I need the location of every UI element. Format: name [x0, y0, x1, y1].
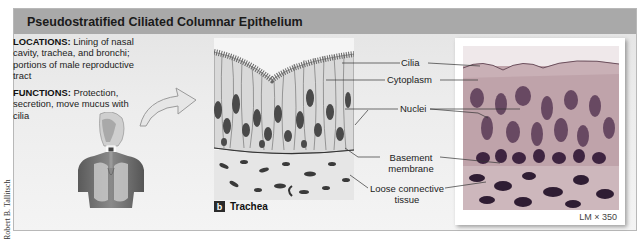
panel-title: Pseudostratified Ciliated Columnar Epith… — [14, 9, 636, 34]
epithelium-drawing — [214, 38, 354, 200]
label-basement-line2: membrane — [382, 163, 440, 174]
label-loose-line1: Loose connective — [368, 183, 446, 194]
figure-caption: b Trachea — [214, 201, 268, 212]
label-loose-connective-tissue: Loose connective tissue — [368, 183, 446, 205]
locations-block: LOCATIONS: Lining of nasal cavity, trach… — [13, 36, 138, 81]
label-cilia: Cilia — [401, 57, 419, 68]
label-nuclei: Nuclei — [400, 103, 426, 114]
micrograph-image — [463, 46, 619, 210]
label-basement-line1: Basement — [382, 152, 440, 163]
label-loose-line2: tissue — [368, 194, 446, 205]
locations-label: LOCATIONS: — [13, 36, 71, 47]
micrograph-frame: LM × 350 — [455, 38, 625, 225]
magnification-label: LM × 350 — [579, 212, 617, 222]
panel-letter-badge: b — [214, 201, 225, 212]
photo-credit: Robert B. Tallitsch — [1, 170, 13, 239]
panel-caption-title: Trachea — [230, 201, 268, 212]
functions-label: FUNCTIONS: — [13, 87, 71, 98]
label-basement-membrane: Basement membrane — [382, 152, 440, 174]
label-cytoplasm: Cytoplasm — [387, 74, 432, 85]
curved-arrow-icon — [138, 78, 198, 128]
